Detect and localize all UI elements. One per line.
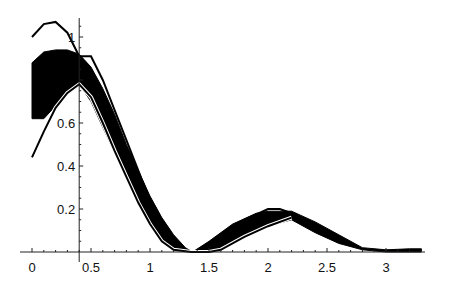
x-tick-label: 2 — [264, 261, 271, 274]
chart-figure: 00.511.522.530.20.40.61 — [0, 0, 450, 283]
axis-ticks — [32, 26, 421, 252]
y-tick-label: 0.4 — [57, 160, 75, 173]
x-tick-label: 3 — [382, 261, 389, 274]
filled-band — [32, 50, 421, 252]
x-tick-label: 1 — [146, 261, 153, 274]
x-tick-label: 0.5 — [82, 261, 100, 274]
y-tick-label: 0.6 — [57, 117, 75, 130]
y-tick-label: 1 — [68, 31, 75, 44]
x-tick-label: 2.5 — [318, 261, 336, 274]
x-tick-label: 0 — [28, 261, 35, 274]
x-tick-label: 1.5 — [200, 261, 218, 274]
y-tick-label: 0.2 — [57, 203, 75, 216]
